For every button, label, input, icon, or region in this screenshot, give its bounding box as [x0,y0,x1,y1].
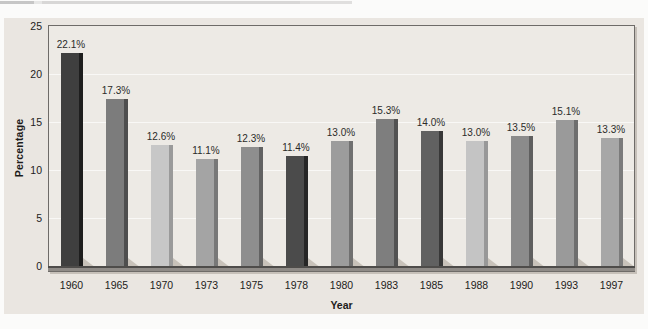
y-tick-15: 15 [30,116,42,128]
x-axis-title: Year [48,299,635,311]
bar-slot-1975: 12.3%1975 [229,26,274,266]
bar-slot-1997: 13.3%1997 [589,26,634,266]
scan-artifact [0,1,352,4]
y-axis-title: Percentage [13,119,25,178]
bar-1973 [196,159,218,266]
bar-1983 [376,119,398,266]
y-tick-0: 0 [36,260,42,272]
bar-slot-1960: 22.1%1960 [49,26,94,266]
bar-slot-1983: 15.3%1983 [364,26,409,266]
bar-slot-1980: 13.0%1980 [319,26,364,266]
x-tick-1973: 1973 [195,279,218,291]
x-tick-1983: 1983 [375,279,398,291]
bar-1975 [241,147,263,266]
x-axis-line [48,266,635,271]
x-tick-1970: 1970 [150,279,173,291]
value-label-1960: 22.1% [57,39,85,50]
value-label-1970: 12.6% [147,131,175,142]
bar-slot-1993: 15.1%1993 [544,26,589,266]
bar-1960 [61,53,83,266]
bar-slot-1990: 13.5%1990 [499,26,544,266]
y-tick-5: 5 [36,212,42,224]
value-label-1975: 12.3% [237,133,265,144]
x-tick-1993: 1993 [555,279,578,291]
plot-area: 0510152025 22.1%196017.3%196512.6%197011… [48,25,635,272]
x-tick-1997: 1997 [600,279,623,291]
value-label-1978: 11.4% [282,142,310,153]
value-label-1983: 15.3% [372,105,400,116]
bar-slot-1988: 13.0%1988 [454,26,499,266]
bar-1965 [106,99,128,266]
value-label-1973: 11.1% [192,145,220,156]
x-tick-1990: 1990 [510,279,533,291]
x-tick-1975: 1975 [240,279,263,291]
bar-slot-1978: 11.4%1978 [274,26,319,266]
bar-slot-1973: 11.1%1973 [184,26,229,266]
bar-slot-1965: 17.3%1965 [94,26,139,266]
x-tick-1985: 1985 [420,279,443,291]
bar-1988 [466,141,488,266]
y-tick-20: 20 [30,68,42,80]
bar-series: 22.1%196017.3%196512.6%197011.1%197312.3… [49,26,634,266]
x-tick-1960: 1960 [60,279,83,291]
bar-1985 [421,131,443,266]
value-label-1980: 13.0% [327,127,355,138]
bar-slot-1985: 14.0%1985 [409,26,454,266]
chart-panel: Percentage 0510152025 22.1%196017.3%1965… [4,18,644,314]
bar-1978 [286,156,308,266]
x-tick-1988: 1988 [465,279,488,291]
x-tick-1980: 1980 [330,279,353,291]
value-label-1997: 13.3% [597,124,625,135]
y-tick-25: 25 [30,20,42,32]
x-tick-1978: 1978 [285,279,308,291]
value-label-1993: 15.1% [552,106,580,117]
bar-slot-1970: 12.6%1970 [139,26,184,266]
bar-1980 [331,141,353,266]
bar-1993 [556,120,578,266]
bar-1970 [151,145,173,266]
bar-1990 [511,136,533,266]
bar-1997 [601,138,623,266]
value-label-1985: 14.0% [417,117,445,128]
value-label-1990: 13.5% [507,122,535,133]
value-label-1965: 17.3% [102,85,130,96]
value-label-1988: 13.0% [462,127,490,138]
x-tick-1965: 1965 [105,279,128,291]
y-tick-10: 10 [30,164,42,176]
